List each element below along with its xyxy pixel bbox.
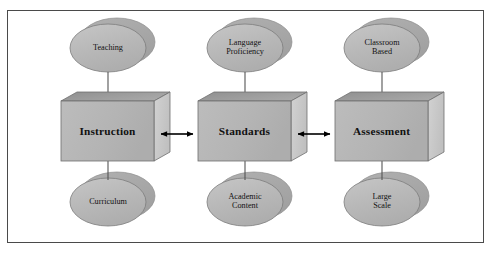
diagram-graphics xyxy=(0,0,493,255)
top-node-teaching-shape xyxy=(70,18,155,72)
bottom-node-academic-content-shape xyxy=(207,172,292,226)
bottom-node-large-scale-shape xyxy=(344,172,429,226)
diagram-canvas: Teaching Language Proficiency Classroom … xyxy=(0,0,493,255)
top-node-language-proficiency-shape xyxy=(207,18,292,72)
top-node-classroom-based-shape xyxy=(344,18,429,72)
cube-instruction-shape xyxy=(61,92,170,161)
cube-assessment-shape xyxy=(335,92,444,161)
cube-standards-shape xyxy=(198,92,307,161)
bottom-node-curriculum-shape xyxy=(70,172,155,226)
